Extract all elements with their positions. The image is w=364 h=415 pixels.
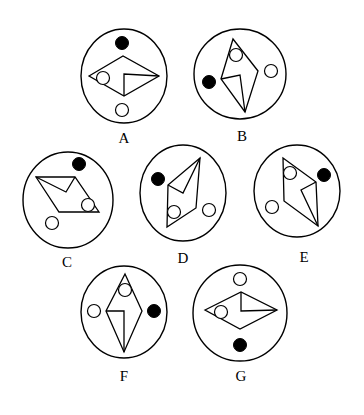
inner-circle [97, 72, 110, 85]
figure-e [254, 145, 340, 237]
figure-f [81, 266, 167, 358]
hollow-dot [234, 273, 247, 286]
label-b: B [237, 128, 247, 144]
inner-circle [215, 306, 228, 319]
notch-lines [168, 158, 200, 193]
outer-ellipse [254, 145, 340, 237]
figure-g [193, 265, 287, 361]
notch-lines [36, 177, 75, 192]
hollow-dot [266, 201, 279, 214]
black-dot [234, 339, 247, 352]
label-c: C [62, 254, 72, 270]
label-e: E [299, 249, 308, 265]
outer-ellipse [23, 152, 113, 248]
inner-circle [168, 206, 181, 219]
figure-puzzle: A B C D E [0, 0, 364, 415]
hollow-dot [265, 65, 278, 78]
figure-d [140, 145, 226, 241]
black-dot [116, 37, 129, 50]
label-g: G [236, 368, 247, 384]
hollow-dot [203, 204, 216, 217]
black-dot [318, 169, 331, 182]
black-dot [73, 158, 86, 171]
black-dot [152, 173, 165, 186]
label-d: D [178, 250, 189, 266]
inner-circle [284, 167, 297, 180]
inner-circle [119, 284, 132, 297]
figure-b [194, 29, 286, 119]
figure-c [23, 152, 113, 248]
hollow-dot [46, 217, 59, 230]
black-dot [148, 305, 161, 318]
label-a: A [119, 130, 130, 146]
inner-circle [230, 49, 243, 62]
inner-circle [82, 199, 95, 212]
black-dot [203, 76, 216, 89]
figure-a [81, 29, 167, 123]
hollow-dot [88, 305, 101, 318]
label-f: F [120, 368, 128, 384]
hollow-dot [116, 104, 129, 117]
